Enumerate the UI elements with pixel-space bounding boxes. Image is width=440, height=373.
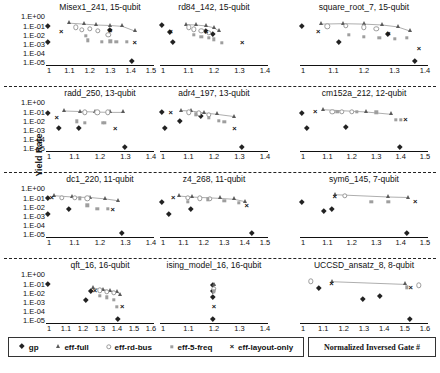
x-tick-labels: 11.11.21.31.41.5 <box>46 66 154 78</box>
x-tick-label: 1.4 <box>146 152 156 161</box>
x-tick-labels: 11.11.21.31.4 <box>160 152 268 164</box>
eff-full-marker <box>121 109 125 113</box>
eff-5-freq-marker <box>192 33 195 36</box>
trend-line <box>46 272 154 324</box>
legend-item: eff-full <box>54 343 88 352</box>
row-separator <box>4 86 436 87</box>
legend-item: ×eff-layout-only <box>228 343 293 352</box>
eff-layout-only-marker: × <box>171 195 175 203</box>
eff-full-marker <box>118 292 122 296</box>
y-tick-label: 1.E-03 <box>23 297 45 306</box>
y-tick-label: 1.E-03 <box>23 125 45 134</box>
eff-layout-only-marker: × <box>413 198 417 206</box>
y-tick-label: 1.E-04 <box>23 49 45 58</box>
x-tick-label: 1.4 <box>395 238 405 247</box>
x-tick-label: 1.6 <box>420 324 430 333</box>
eff-5-freq-marker <box>222 199 225 202</box>
chart-panel: qft_16, 16-qubit××11.11.21.31.41.51.61.E… <box>46 260 154 345</box>
y-tick-label: 1.E-05 <box>23 316 45 325</box>
eff-full-marker <box>396 24 400 28</box>
eff-layout-only-marker: × <box>111 206 115 214</box>
x-tick-label: 1.3 <box>105 66 115 75</box>
x-tick-label: 1.5 <box>260 238 270 247</box>
eff-full-marker <box>212 25 216 29</box>
x-tick-label: 1.3 <box>234 66 244 75</box>
x-tick-label: 1.3 <box>389 66 399 75</box>
eff-full-marker <box>194 22 198 26</box>
square-marker <box>170 345 173 348</box>
eff-full-marker <box>179 108 183 112</box>
eff-5-freq-marker <box>108 39 111 42</box>
chart-panel: ising_model_16, 16-qubit×11.11.21.31.4 <box>160 260 268 345</box>
chart-panel: radd_250, 13-qubit××11.11.21.31.41.E+001… <box>46 88 154 173</box>
eff-layout-only-marker: × <box>417 46 421 54</box>
x-tick-label: 1.5 <box>420 152 430 161</box>
x-tick-label: 1.4 <box>420 66 430 75</box>
trend-line <box>160 100 268 152</box>
y-tick-label: 1.E-01 <box>23 21 45 30</box>
x-tick-label: 1.1 <box>64 66 74 75</box>
x-tick-label: 1 <box>161 152 165 161</box>
eff-full-marker <box>218 195 222 199</box>
diamond-marker <box>19 343 27 351</box>
eff-layout-only-marker: × <box>409 284 413 292</box>
x-tick-label: 1.4 <box>260 152 270 161</box>
x-tick-labels: 11.11.21.31.4 <box>160 66 268 78</box>
eff-5-freq-marker <box>85 204 88 207</box>
panel-title: UCCSD_ansatz_8, 8-qubit <box>300 260 428 270</box>
y-tick-label: 1.E-03 <box>23 39 45 48</box>
eff-layout-only-marker: × <box>316 29 320 37</box>
eff-5-freq-marker <box>112 298 115 301</box>
eff-5-freq-marker <box>96 207 99 210</box>
x-tick-label: 1 <box>301 66 305 75</box>
triangle-marker <box>56 344 60 348</box>
eff-full-marker <box>202 110 206 114</box>
x-tick-label: 1.1 <box>322 152 332 161</box>
chart-panel: sym6_145, 7-qubit××11.11.21.31.41.5 <box>300 174 428 259</box>
eff-full-marker <box>82 21 86 25</box>
x-tick-label: 1 <box>47 152 51 161</box>
eff-5-freq-marker <box>347 33 350 36</box>
square-marker <box>168 343 176 351</box>
eff-layout-only-marker: × <box>108 27 112 35</box>
eff-5-freq-marker <box>399 118 402 121</box>
eff-5-freq-marker <box>237 201 240 204</box>
y-tick-labels: 1.E+001.E-011.E-021.E-031.E-041.E-05 <box>12 186 46 238</box>
y-tick-label: 1.E-02 <box>23 288 45 297</box>
plot-area: ×× <box>46 186 154 238</box>
x-tick-label: 1.5 <box>129 324 139 333</box>
plot-area: ×× <box>46 272 154 324</box>
eff-full-marker <box>133 28 137 32</box>
x-tick-label: 1.1 <box>178 238 188 247</box>
plot-area: ×× <box>46 100 154 152</box>
eff-5-freq-marker <box>186 200 189 203</box>
y-tick-label: 1.E+00 <box>21 12 45 21</box>
eff-full-marker <box>232 114 236 118</box>
x-tick-label: 1.3 <box>95 324 105 333</box>
eff-5-freq-marker <box>115 305 118 308</box>
panel-title: adr4_197, 13-qubit <box>160 88 268 98</box>
legend-item-label: eff-5-freq <box>178 343 213 352</box>
eff-layout-only-marker: × <box>329 280 333 288</box>
y-tick-label: 1.E-02 <box>23 202 45 211</box>
x-tick-label: 1.2 <box>209 152 219 161</box>
eff-layout-only-marker: × <box>168 29 172 37</box>
panel-title: z4_268, 11-qubit <box>160 174 268 184</box>
eff-5-freq-marker <box>125 40 128 43</box>
x-tick-label: 1 <box>47 238 51 247</box>
circle-marker <box>105 343 113 351</box>
eff-full-marker <box>217 28 221 32</box>
x-tick-label: 1.4 <box>395 152 405 161</box>
plot-area: ××× <box>46 14 154 66</box>
x-axis-label: Normalized Inversed Gate # <box>308 337 436 357</box>
x-tick-label: 1.1 <box>69 152 79 161</box>
x-tick-label: 1.5 <box>146 66 156 75</box>
y-tick-label: 1.E-01 <box>23 107 45 116</box>
x-tick-label: 1.1 <box>69 238 79 247</box>
eff-layout-only-marker: × <box>386 30 390 38</box>
eff-full-marker <box>212 282 216 286</box>
x-tick-label: 1.1 <box>322 238 332 247</box>
y-tick-label: 1.E-05 <box>23 58 45 67</box>
eff-5-freq-marker <box>106 207 109 210</box>
y-tick-label: 1.E-02 <box>23 30 45 39</box>
